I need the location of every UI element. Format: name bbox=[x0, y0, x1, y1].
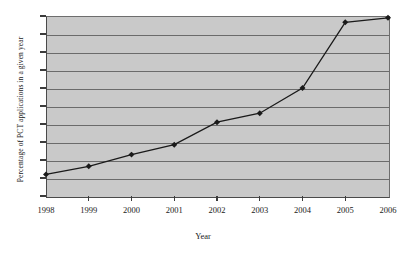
x-tick-mark bbox=[131, 196, 132, 201]
line-chart: Percentage of PCT applications in a give… bbox=[0, 0, 406, 255]
x-tick-mark bbox=[88, 196, 89, 201]
x-tick-mark bbox=[345, 196, 346, 201]
gridline bbox=[47, 143, 389, 144]
gridline bbox=[47, 125, 389, 126]
gridline bbox=[47, 161, 389, 162]
x-tick-label: 1999 bbox=[67, 206, 111, 215]
x-tick-label: 2005 bbox=[323, 206, 367, 215]
y-axis-title: Percentage of PCT applications in a give… bbox=[16, 15, 25, 205]
plot-area bbox=[46, 16, 390, 198]
gridline bbox=[47, 35, 389, 36]
x-tick-mark bbox=[302, 196, 303, 201]
x-tick-label: 1998 bbox=[24, 206, 68, 215]
gridline bbox=[47, 53, 389, 54]
x-tick-label: 2003 bbox=[238, 206, 282, 215]
x-tick-label: 2002 bbox=[195, 206, 239, 215]
x-tick-label: 2000 bbox=[110, 206, 154, 215]
x-axis-title: Year bbox=[0, 231, 406, 241]
x-tick-label: 2001 bbox=[152, 206, 196, 215]
gridline bbox=[47, 107, 389, 108]
gridline bbox=[47, 179, 389, 180]
x-tick-mark bbox=[259, 196, 260, 201]
gridline bbox=[47, 71, 389, 72]
x-tick-mark bbox=[174, 196, 175, 201]
x-tick-label: 2006 bbox=[366, 206, 406, 215]
x-tick-mark bbox=[216, 196, 217, 201]
x-tick-label: 2004 bbox=[281, 206, 325, 215]
gridline bbox=[47, 89, 389, 90]
